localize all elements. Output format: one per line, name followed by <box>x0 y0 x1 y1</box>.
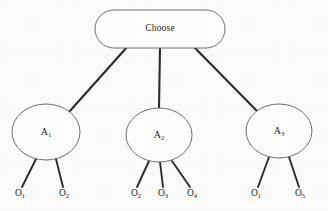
outcome-l2-subscript: 2 <box>66 192 69 199</box>
outcome-l7-subscript: 5 <box>302 192 305 199</box>
outcome-label-l6: O1 <box>251 188 261 198</box>
outcome-l7-base: O <box>295 188 302 198</box>
action-node-a1-label: A1 <box>41 126 52 137</box>
action-a1-subscript: 1 <box>48 131 51 138</box>
action-a3-subscript: 3 <box>281 130 284 137</box>
outcome-label-l1: O1 <box>15 188 25 198</box>
action-node-a2-label: A2 <box>154 129 165 140</box>
outcome-label-l5: O4 <box>187 188 197 198</box>
outcome-label-l2: O2 <box>59 188 69 198</box>
root-branch-edges <box>69 46 257 112</box>
outcome-l5-subscript: 4 <box>194 192 197 199</box>
outcome-l1-subscript: 1 <box>22 192 25 199</box>
outcome-label-l4: O3 <box>158 188 168 198</box>
outcome-label-l3: O2 <box>131 188 141 198</box>
outcome-l2-base: O <box>59 188 66 198</box>
outcome-l1-base: O <box>15 188 22 198</box>
outcome-l4-subscript: 3 <box>165 192 168 199</box>
outcome-l6-subscript: 1 <box>258 192 261 199</box>
edge-a2-to-o3 <box>160 162 163 187</box>
outcome-l4-base: O <box>158 188 165 198</box>
edge-root-to-a2 <box>159 48 160 108</box>
edge-root-to-a3 <box>193 46 257 111</box>
edge-root-to-a1 <box>69 46 128 112</box>
outcome-l5-base: O <box>187 188 194 198</box>
action-a2-subscript: 2 <box>161 134 164 141</box>
edge-a1-to-o2 <box>56 159 63 187</box>
edge-a2-to-o2 <box>137 161 149 187</box>
edge-a3-to-o1 <box>258 157 269 187</box>
outcome-l3-base: O <box>131 188 138 198</box>
action-node-a3-label: A3 <box>274 125 285 136</box>
outcome-l6-base: O <box>251 188 258 198</box>
edge-a3-to-o5 <box>289 157 299 187</box>
outcome-l3-subscript: 2 <box>138 192 141 199</box>
root-node-label: Choose <box>145 23 175 33</box>
decision-tree-diagram: Choose A1 A2 A3 O1 O2 O2 O3 O4 O1 O5 <box>0 0 328 211</box>
edge-a1-to-o1 <box>22 159 36 187</box>
outcome-label-l7: O5 <box>295 188 305 198</box>
edge-a2-to-o4 <box>172 161 190 187</box>
